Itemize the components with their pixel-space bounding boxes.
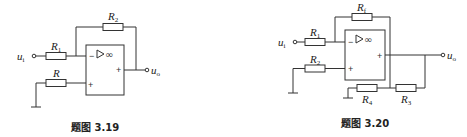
resistor-r4 [357,85,377,92]
resistor-r1 [46,53,66,60]
output-terminal [441,53,445,57]
output-sign: + [377,51,382,61]
r1-label: R1 [309,26,321,40]
output-label: uo [151,64,161,78]
noninverting-sign: + [348,64,353,74]
infinity-symbol: ∞ [364,34,372,45]
output-sign: + [116,65,121,75]
r2-label: R2 [107,10,119,24]
noninverting-sign: + [88,80,93,90]
infinity-symbol: ∞ [105,49,113,60]
resistor-rf [352,14,372,21]
figure-caption: 题图 3.20 [341,118,389,129]
figure-3-20: ui R1 Rf − ∞ + + uo R2 R4 R3 [278,1,457,129]
output-terminal [145,68,149,72]
input-terminal [32,54,36,58]
inverting-sign: − [89,51,94,61]
input-terminal [293,40,297,44]
resistor-r2 [305,65,325,72]
r-label: R [52,67,60,79]
circuit-diagrams: ui R1 R2 − ∞ + + uo R 题图 3.19 ui [0,0,467,137]
resistor-r1 [305,39,325,46]
resistor-r [46,80,66,87]
r2-label: R2 [309,53,321,67]
inverting-sign: − [348,37,353,47]
output-label: uo [447,49,457,63]
figure-3-19: ui R1 R2 − ∞ + + uo R 题图 3.19 [17,10,161,133]
figure-caption: 题图 3.19 [71,122,119,133]
resistor-r3 [396,85,416,92]
rf-label: Rf [356,1,367,15]
r1-label: R1 [50,40,62,54]
resistor-r2 [103,24,123,31]
input-label: ui [278,36,286,50]
r3-label: R3 [400,93,412,107]
input-label: ui [17,50,25,64]
r4-label: R4 [361,93,373,107]
